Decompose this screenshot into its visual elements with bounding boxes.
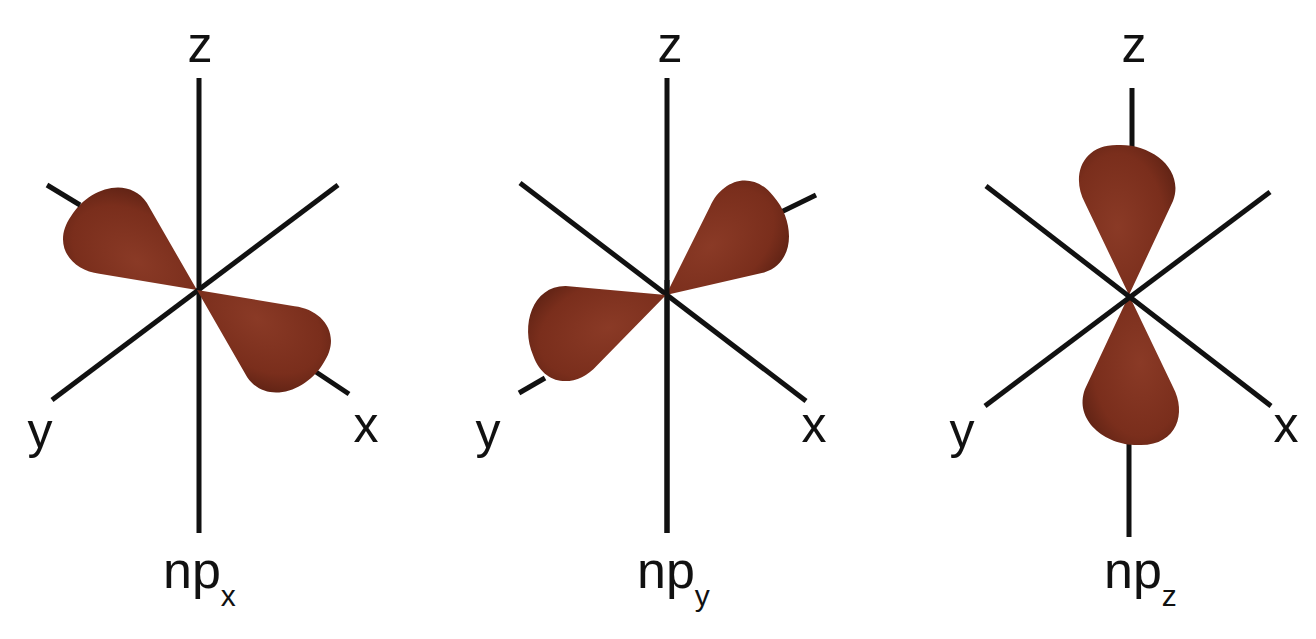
- orbital-label-subscript: x: [221, 579, 236, 612]
- orbital-label: npy: [637, 541, 710, 612]
- z-axis-label: z: [1122, 17, 1147, 73]
- z-axis-label: z: [188, 17, 213, 73]
- orbital-label: npz: [1104, 541, 1177, 612]
- panel-px: z y x npx: [28, 17, 379, 612]
- orbital-lobe-bottom: [1083, 295, 1180, 445]
- y-axis-label: y: [28, 403, 53, 459]
- y-axis-line-front: [519, 378, 545, 393]
- y-axis-label: y: [476, 403, 501, 459]
- orbital-label-subscript: y: [695, 579, 710, 612]
- x-axis-label: x: [802, 397, 827, 453]
- y-axis-label: y: [950, 403, 975, 459]
- orbital-lobe-back: [636, 167, 808, 330]
- orbital-lobe-front: [514, 253, 683, 391]
- x-axis-line-back: [47, 185, 80, 205]
- orbital-label-main: np: [1104, 541, 1162, 599]
- orbital-label-main: np: [637, 541, 695, 599]
- x-axis-label: x: [354, 397, 379, 453]
- x-axis-label: x: [1274, 397, 1299, 453]
- panel-pz: z y x npz: [950, 17, 1299, 612]
- orbital-label-main: np: [163, 541, 221, 599]
- z-axis-label: z: [658, 17, 683, 73]
- panel-py: z y x npy: [476, 17, 827, 612]
- p-orbitals-diagram: z y x npx z y x npy: [0, 0, 1316, 639]
- orbital-label-subscript: z: [1162, 579, 1177, 612]
- orbital-label: npx: [163, 541, 236, 612]
